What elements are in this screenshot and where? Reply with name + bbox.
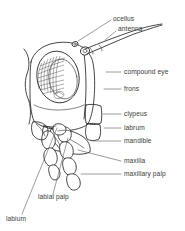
labrum-plate [86,123,101,140]
maxillary-palp-segment-3 [63,158,77,175]
label-mandible: mandible [124,137,152,144]
compound-eye-outline [32,47,83,106]
gena-boundary [34,105,84,110]
label-labrum: labrum [124,124,145,131]
cardo-hinge [44,126,56,127]
labial-palp-segment-3 [49,165,60,180]
label-ocellus: ocellus [113,15,135,22]
label-labial-palp: labial palp [38,193,69,201]
neck-outline [24,49,29,101]
label-antenna: antenna [118,25,143,32]
ocellus-shape [71,41,78,47]
leader-ocellus [78,20,111,41]
label-maxillary-palp: maxillary palp [124,170,166,178]
label-compound-eye: compound eye [124,68,169,76]
maxillary-palp [58,127,81,190]
clypeus-plate [85,104,102,124]
labial-palp [42,131,60,180]
diagram-canvas: ocellusantennacompound eyefronsclypeusla… [0,0,185,231]
labial-palp-segment-2 [44,148,57,166]
label-clypeus: clypeus [124,110,148,118]
maxillary-palp-segment-4 [67,174,81,190]
leader-maxilla [78,150,121,161]
label-labium: labium [6,215,26,222]
label-maxilla: maxilla [124,157,145,164]
insect-head-artwork [24,24,162,190]
antenna-scape-joint [90,48,93,54]
label-frons: frons [124,85,140,92]
insect-head-diagram: ocellusantennacompound eyefronsclypeusla… [0,0,185,231]
